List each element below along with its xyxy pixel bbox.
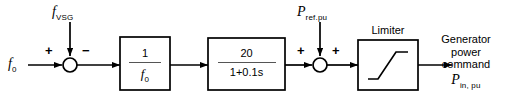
block2-fraction: 20 1+0.1s	[208, 47, 285, 78]
block1-numerator: 1	[120, 47, 170, 59]
sum2-plus-sign-top: +	[332, 44, 340, 57]
fvsg-signal-label: fVSG	[52, 5, 73, 22]
sum2-plus-sign-left: +	[297, 44, 305, 57]
input-signal-label: f0	[8, 57, 17, 74]
block-diagram: f0 fVSG + − 1 f0 20 1+0.1s Pref.pu + + L…	[0, 0, 509, 104]
limiter-label: Limiter	[358, 25, 418, 36]
output-label-group: Generator power command Pin, pu	[424, 33, 508, 92]
block2-fraction-bar	[218, 62, 276, 63]
output-line-3: command	[424, 58, 508, 71]
block2-denominator: 1+0.1s	[208, 66, 285, 78]
block2-numerator: 20	[208, 47, 285, 59]
summing-junction-1	[63, 58, 77, 72]
summing-junction-2	[313, 58, 327, 72]
output-line-1: Generator	[424, 33, 508, 46]
output-symbol: Pin, pu	[424, 74, 508, 92]
sum1-minus-sign: −	[82, 44, 90, 57]
block1-denominator: f0	[120, 66, 170, 84]
sum1-plus-sign: +	[45, 44, 53, 57]
pref-signal-label: Pref.pu	[297, 5, 327, 22]
output-line-2: power	[424, 46, 508, 59]
block1-fraction-bar	[129, 62, 161, 63]
block1-fraction: 1 f0	[120, 47, 170, 84]
